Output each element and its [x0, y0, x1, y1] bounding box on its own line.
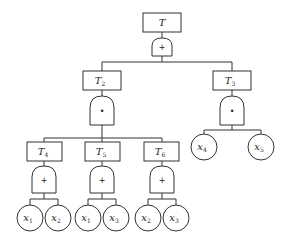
node-T3: T3 • x4 x5	[191, 71, 274, 160]
gate-symbol: +	[41, 176, 48, 185]
gate-symbol: +	[159, 176, 166, 185]
gate-symbol: +	[159, 43, 166, 52]
node-T4: T4 + x1 x2	[17, 142, 71, 231]
node-T2: T2 •	[44, 71, 162, 142]
gate-symbol: •	[230, 107, 235, 116]
node-T: T +	[102, 13, 232, 71]
gate-symbol: +	[99, 176, 106, 185]
node-T5: T5 + x1 x3	[75, 142, 129, 231]
fault-tree-diagram: T + T2 • T3 • x4 x5	[0, 0, 288, 248]
gate-symbol: •	[100, 107, 105, 116]
node-T6: T6 + x2 x3	[135, 142, 189, 231]
